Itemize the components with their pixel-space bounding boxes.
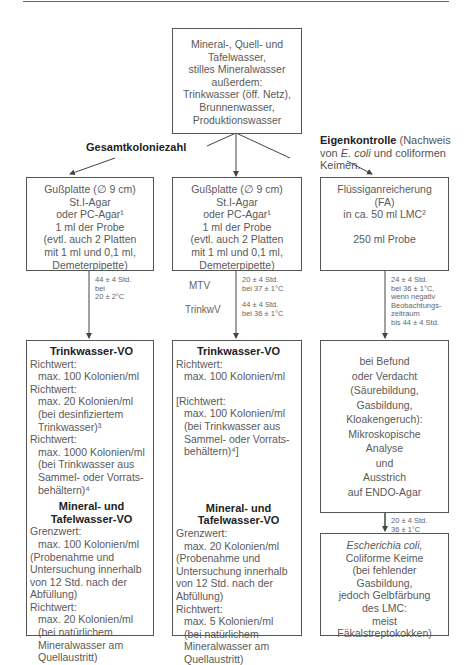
mtv-incubation-condition: 20 ± 4 Std. bei 37 ± 1°C <box>242 276 283 293</box>
analysis-line: oder Verdacht <box>321 369 448 384</box>
left-limits-box: Trinkwasser-VO Richtwert: max. 100 Kolon… <box>26 340 154 636</box>
plate-line: St.I-Agar <box>27 196 153 209</box>
plate-line: Demeterpipette) <box>27 259 153 272</box>
sample-volume: 250 ml Probe <box>321 233 448 246</box>
limit-line: Mineralwasser am <box>176 640 301 653</box>
plate-line: Gußplatte (∅ 9 cm) <box>173 183 301 196</box>
result-line: des LMC: <box>321 602 448 615</box>
limit-line: (Probenahme und <box>176 552 301 565</box>
left-plate-box: Gußplatte (∅ 9 cm) St.I-Agar oder PC-Aga… <box>26 177 154 271</box>
limit-line: Quellaustritt) <box>30 651 153 664</box>
analysis-line: Gasbildung, <box>321 398 448 413</box>
middle-plate-box: Gußplatte (∅ 9 cm) St.I-Agar oder PC-Aga… <box>172 177 302 271</box>
water-type-line: stilles Mineralwasser <box>173 63 301 76</box>
plate-line: mit 1 ml und 0,1 ml, <box>27 246 153 259</box>
limit-line: Mineralwasser am <box>30 639 153 652</box>
condition-line: 20 ± 2°C <box>95 293 131 302</box>
limit-line: von 12 Std. nach der <box>30 576 153 589</box>
limit-line: (bei Trinkwasser aus <box>30 458 153 471</box>
limit-line: Untersuchung innerhalb <box>176 565 301 578</box>
gesamtkoloniezahl-text: Gesamtkoloniezahl <box>86 141 186 153</box>
analysis-line: Mikroskopische <box>321 427 448 442</box>
middle-limits-box: Trinkwasser-VO Richtwert: max. 100 Kolon… <box>172 340 302 636</box>
mineralwasser-vo-heading: Mineral- und <box>30 500 153 513</box>
water-type-line: Produktionswasser <box>173 114 301 127</box>
trinkwv-label: TrinkwV <box>185 304 221 315</box>
plate-line: St.I-Agar <box>173 196 301 209</box>
analysis-line: Ausstrich <box>321 470 448 485</box>
result-line: jedoch Gelbfärbung <box>321 589 448 602</box>
ecoli-text: E. coli <box>341 147 371 159</box>
mineralwasser-vo-heading: Mineral- und <box>176 502 301 515</box>
trinkwasser-vo-heading: Trinkwasser-VO <box>30 345 153 358</box>
mineralwasser-vo-heading: Tafelwasser-VO <box>30 513 153 526</box>
endo-incubation-condition: 20 ± 4 Std. 36 ± 1°C <box>391 517 427 534</box>
ecoli-result-box: Escherichia coli, Coliforme Keime (bei f… <box>320 533 449 636</box>
result-line: meist <box>321 615 448 628</box>
limit-line: Richtwert: <box>30 601 153 614</box>
enrichment-line: in ca. 50 ml LMC² <box>321 208 448 221</box>
limit-line: max. 100 Kolonien/ml <box>30 538 153 551</box>
right-enrichment-box: Flüssiganreicherung (FA) in ca. 50 ml LM… <box>320 177 449 271</box>
limit-line: max. 20 Kolonien/ml <box>176 540 301 553</box>
plate-line: (evtl. auch 2 Platten <box>27 233 153 246</box>
enrichment-line: Flüssiganreicherung <box>321 183 448 196</box>
limit-line: max. 20 Kolonien/ml <box>30 613 153 626</box>
limit-line: (bei natürlichem <box>30 626 153 639</box>
plate-line: 1 ml der Probe <box>173 221 301 234</box>
limit-line: Richtwert: <box>176 358 301 371</box>
plate-line: Gußplatte (∅ 9 cm) <box>27 183 153 196</box>
eigenkontrolle-text: und coliformen <box>371 147 446 159</box>
limit-line: Quellaustritt) <box>176 653 301 665</box>
enrichment-line: (FA) <box>321 196 448 209</box>
limit-line: (bei natürlichem <box>176 628 301 641</box>
limit-line: behältern)⁴] <box>176 445 301 458</box>
analysis-line: bei Befund <box>321 354 448 369</box>
limit-line: Richtwert: <box>30 433 153 446</box>
limit-line: max. 100 Kolonien/ml <box>176 370 301 383</box>
limit-line: von 12 Std. nach der <box>176 577 301 590</box>
limit-line: max. 100 Kolonien/ml <box>30 370 153 383</box>
mtv-label: MTV <box>189 280 210 291</box>
analysis-line: Kloakengeruch): <box>321 412 448 427</box>
result-line: Gasbildung, <box>321 577 448 590</box>
limit-line: Richtwert: <box>30 383 153 396</box>
eigenkontrolle-heading: Eigenkontrolle <box>320 134 396 146</box>
eigenkontrolle-text: (Nachweis <box>396 134 450 146</box>
plate-line: Demeterpipette) <box>173 259 301 272</box>
limit-line: max. 20 Kolonien/ml <box>30 395 153 408</box>
condition-line: bei 37 ± 1°C <box>242 285 283 294</box>
limit-line: (bei desinfiziertem <box>30 408 153 421</box>
plate-line: 1 ml der Probe <box>27 221 153 234</box>
limit-line: behältern)⁴ <box>30 484 153 497</box>
trinkwasser-vo-heading: Trinkwasser-VO <box>176 345 301 358</box>
gesamtkoloniezahl-label: Gesamtkoloniezahl <box>86 141 186 154</box>
plate-line: oder PC-Agar¹ <box>173 208 301 221</box>
water-type-line: Brunnenwasser, <box>173 101 301 114</box>
water-type-line: außerdem: <box>173 76 301 89</box>
result-line: Fäkalstreptokokken) <box>321 627 448 640</box>
right-analysis-box: bei Befund oder Verdacht (Säurebildung, … <box>320 340 449 513</box>
result-line: Coliforme Keime <box>321 552 448 565</box>
analysis-line: und <box>321 456 448 471</box>
limit-line: Untersuchung innerhalb <box>30 563 153 576</box>
result-line: (bei fehlender <box>321 564 448 577</box>
analysis-line: Analyse <box>321 441 448 456</box>
eigenkontrolle-text: Keimen. <box>320 159 360 171</box>
water-type-line: Trinkwasser (öff. Netz), <box>173 88 301 101</box>
limit-line: Grenzwert: <box>176 527 301 540</box>
limit-line: Trinkwasser)³ <box>30 421 153 434</box>
water-type-line: Tafelwasser, <box>173 51 301 64</box>
limit-line: Richtwert: <box>30 358 153 371</box>
eigenkontrolle-label: Eigenkontrolle (Nachweis von E. coli und… <box>320 134 470 172</box>
limit-line: Sammel- oder Vorrats- <box>176 433 301 446</box>
left-incubation-condition: 44 ± 4 Std. bei 20 ± 2°C <box>95 276 131 302</box>
limit-line: Abfüllung) <box>30 588 153 601</box>
limit-line: Richtwert: <box>176 603 301 616</box>
water-types-box: Mineral-, Quell- und Tafelwasser, stille… <box>172 28 302 134</box>
limit-line: [Richtwert: <box>176 395 301 408</box>
mineralwasser-vo-heading: Tafelwasser-VO <box>176 514 301 527</box>
limit-line: Abfüllung) <box>176 590 301 603</box>
limit-line: max. 100 Kolonien/ml <box>176 407 301 420</box>
analysis-line: auf ENDO-Agar <box>321 485 448 500</box>
